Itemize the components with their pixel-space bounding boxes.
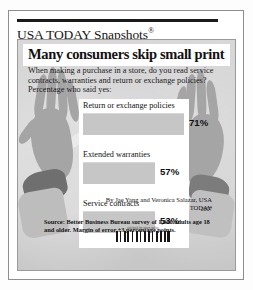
bar-0 [83,113,184,135]
chart-panel: Many consumers skip small print When mak… [17,39,236,271]
bar-group-1: Extended warranties 57% [79,150,189,183]
masthead-rule [17,19,218,22]
snapshot-page: USA TODAY Snapshots® Many consumers skip… [0,0,253,290]
bar-value-0: 71% [189,117,208,128]
bar-1 [83,162,155,184]
bar-value-1: 57% [160,166,179,177]
bar-track-0: 71% [79,113,189,134]
bar-group-0: Return or exchange policies 71% [79,101,189,134]
subhead-text: When making a purchase in a store, do yo… [28,66,233,95]
registered-mark-icon: ® [148,26,154,35]
year-label: 2007 [150,206,212,212]
bar-label-0: Return or exchange policies [79,101,189,111]
headline-box: Many consumers skip small print [23,44,230,66]
source-note: Source: Better Business Bureau survey of… [44,218,210,233]
bar-track-1: 57% [79,162,189,183]
bar-label-1: Extended warranties [79,150,189,160]
page-title: Many consumers skip small print [28,46,225,62]
